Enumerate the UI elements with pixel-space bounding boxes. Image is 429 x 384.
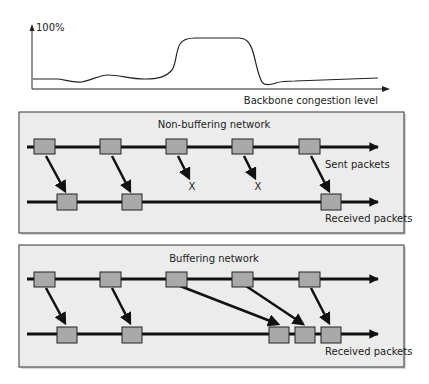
received-packet [122,327,142,343]
non-buffering-panel: Non-buffering network X X Sent packets R… [19,112,412,235]
diagram-canvas: 100% Backbone congestion level Non-buffe… [0,0,429,384]
lost-packet-marker: X [255,181,262,192]
panel-title: Non-buffering network [158,119,271,130]
congestion-curve [33,38,378,84]
x-axis-label: Backbone congestion level [244,95,378,106]
sent-packet [232,139,253,154]
sent-packet [232,272,253,287]
sent-packets-label: Sent packets [325,159,390,170]
buffering-panel: Buffering network Received packets [19,245,412,369]
lost-packet-marker: X [189,181,196,192]
sent-packet [34,272,55,287]
received-packet [321,327,341,343]
received-packet [122,194,142,210]
received-packet [269,327,289,343]
y-axis-max-label: 100% [36,22,65,33]
sent-packet [166,272,187,287]
sent-packet [34,139,55,154]
received-packets-label: Received packets [325,213,412,224]
panel-title: Buffering network [169,253,259,264]
received-packet [321,194,341,210]
sent-packet [299,272,320,287]
received-packet [295,327,315,343]
received-packet [57,194,77,210]
congestion-chart: 100% Backbone congestion level [30,22,391,106]
sent-packet [299,139,320,154]
received-packet [57,327,77,343]
sent-packet [166,139,187,154]
received-packets-label: Received packets [325,346,412,357]
y-axis-arrow-icon [30,24,35,31]
sent-packet [100,272,121,287]
sent-packet [100,139,121,154]
x-axis-arrow-icon [382,86,390,92]
